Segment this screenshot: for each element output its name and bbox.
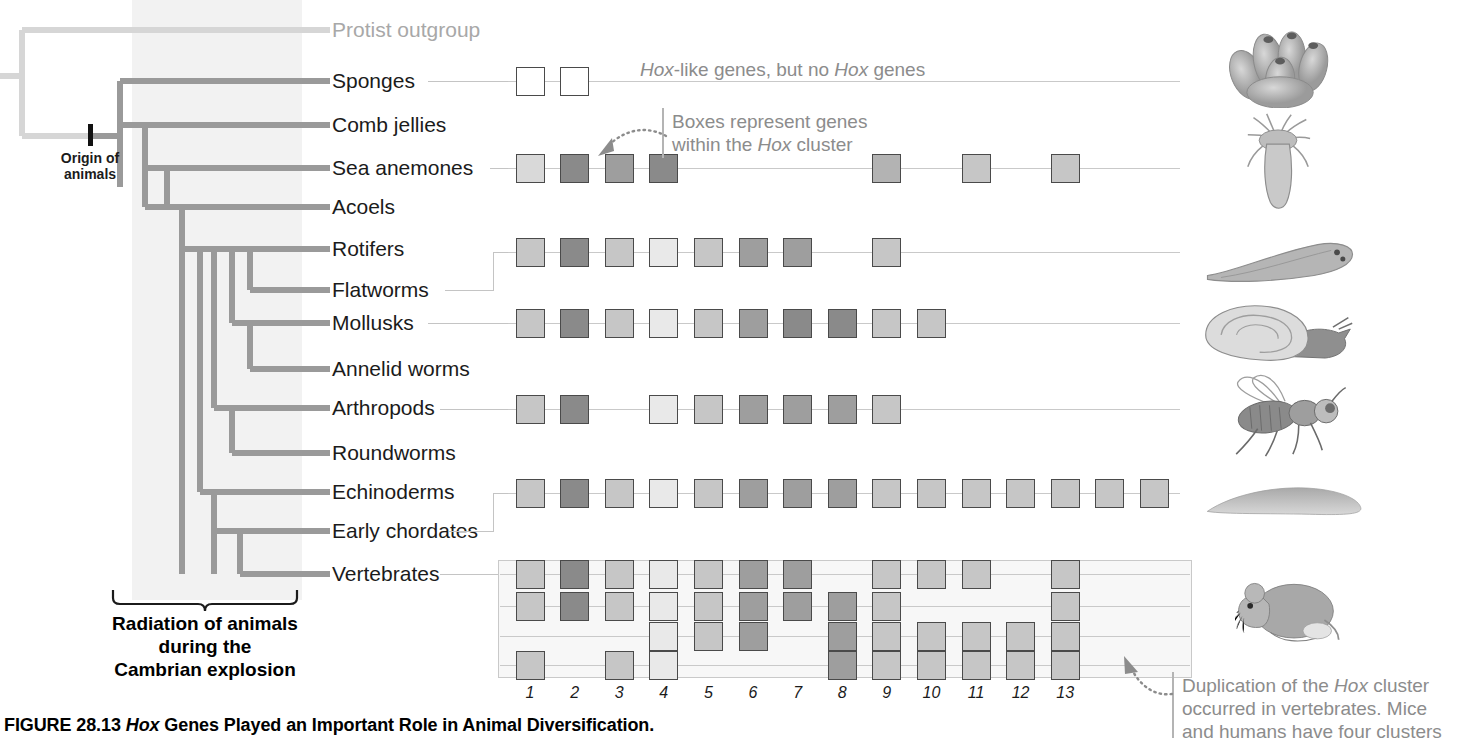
tree-branch-vertebrates — [240, 571, 330, 577]
hox-gene-box-sea-anemones-1 — [516, 154, 545, 183]
hox-gene-box-cluster-d-13 — [1051, 651, 1080, 680]
hox-gene-box-echinoderms-early-chordates-8 — [828, 479, 857, 508]
hox-column-number-6: 6 — [733, 684, 773, 702]
tree-node-bilateria — [179, 207, 185, 574]
taxon-label-comb-jellies: Comb jellies — [332, 114, 446, 135]
cambrian-line-3: Cambrian explosion — [114, 659, 296, 680]
hox-like-annotation-italic-1: Hox — [640, 59, 674, 80]
cambrian-line-1: Radiation of animals — [112, 613, 298, 634]
hox-gene-box-cluster-a-4 — [649, 560, 678, 589]
hox-gene-box-cluster-d-3 — [605, 651, 634, 680]
hox-gene-box-mollusks-annelid-worms-2 — [560, 309, 589, 338]
hox-gene-box-mollusks-annelid-worms-1 — [516, 309, 545, 338]
sea-cucumber-illustration — [1200, 483, 1368, 519]
origin-label-line-2: animals — [64, 166, 116, 182]
cambrian-line-2: during the — [159, 636, 252, 657]
hox-column-number-2: 2 — [555, 684, 595, 702]
tree-branch-acoels — [182, 204, 330, 210]
boxes-annotation-line-2a: within the — [672, 134, 758, 155]
hox-gene-box-arthropods-roundworms-1 — [516, 395, 545, 424]
tree-branch-origin — [92, 133, 120, 139]
taxon-label-sea-anemones: Sea anemones — [332, 157, 473, 178]
hox-like-annotation-italic-2: Hox — [834, 59, 868, 80]
taxon-label-roundworms: Roundworms — [332, 442, 456, 463]
tree-branch-protist-outgroup — [22, 27, 330, 33]
hox-column-number-1: 1 — [510, 684, 550, 702]
hox-gene-box-mollusks-annelid-worms-9 — [872, 309, 901, 338]
leader-arthropods — [440, 409, 510, 410]
hox-gene-box-echinoderms-early-chordates-2 — [560, 479, 589, 508]
hox-column-number-3: 3 — [599, 684, 639, 702]
hox-gene-box-cluster-a-10 — [917, 560, 946, 589]
tree-branch-rotifers — [250, 246, 330, 252]
tree-outgroup-split — [19, 30, 25, 136]
hox-gene-box-cluster-a-2 — [560, 560, 589, 589]
hox-column-number-5: 5 — [688, 684, 728, 702]
hox-gene-box-arthropods-roundworms-4 — [649, 395, 678, 424]
tree-link-7 — [232, 246, 250, 252]
tree-node-rot-flat — [247, 249, 253, 290]
taxon-label-echinoderms: Echinoderms — [332, 481, 455, 502]
hox-gene-box-echinoderms-early-chordates-1 — [516, 479, 545, 508]
hox-gene-box-cluster-b-2 — [560, 592, 589, 621]
tree-link-4 — [182, 246, 200, 252]
hox-column-number-13: 13 — [1045, 684, 1085, 702]
duplication-line-1a: Duplication of the — [1182, 675, 1334, 696]
tree-link-9 — [214, 405, 232, 411]
origin-label-line-1: Origin of — [61, 150, 119, 166]
hox-gene-box-cluster-c-4 — [649, 622, 678, 651]
leader-flatworms-h — [445, 290, 493, 291]
hox-gene-box-sea-anemones-2 — [560, 154, 589, 183]
hox-gene-box-cluster-c-13 — [1051, 622, 1080, 651]
hox-gene-box-cluster-b-6 — [739, 592, 768, 621]
origin-of-animals-marker — [88, 124, 93, 146]
hox-gene-box-echinoderms-early-chordates-4 — [649, 479, 678, 508]
taxon-label-annelid-worms: Annelid worms — [332, 358, 470, 379]
leader-mollusks — [428, 323, 510, 324]
hox-gene-box-echinoderms-early-chordates-12 — [1006, 479, 1035, 508]
hox-gene-box-cluster-b-4 — [649, 592, 678, 621]
snail-illustration — [1198, 300, 1358, 364]
hox-gene-box-cluster-c-11 — [962, 622, 991, 651]
hox-gene-box-mollusks-annelid-worms-5 — [694, 309, 723, 338]
cambrian-explosion-label: Radiation of animals during the Cambrian… — [55, 613, 355, 681]
tree-link-10 — [200, 489, 214, 495]
hox-like-genes-annotation: Hox-like genes, but no Hox genes — [640, 58, 925, 81]
hox-like-annotation-text-1: -like genes, but no — [674, 59, 835, 80]
tree-branch-annelid-worms — [250, 366, 330, 372]
tree-node-nephrozoa — [197, 249, 203, 492]
hox-backbone-line-cluster-a — [500, 574, 1190, 575]
hox-gene-box-rotifers-flatworms-9 — [872, 238, 901, 267]
hox-gene-box-echinoderms-early-chordates-13 — [1051, 479, 1080, 508]
boxes-annotation-line-2c: cluster — [791, 134, 852, 155]
hox-gene-box-sponges-1 — [516, 67, 545, 96]
hox-gene-box-cluster-b-5 — [694, 592, 723, 621]
leader-vertebrates — [440, 574, 502, 575]
hox-gene-box-cluster-d-1 — [516, 651, 545, 680]
tree-branch-echinoderms — [214, 489, 330, 495]
hox-gene-box-cluster-b-1 — [516, 592, 545, 621]
hox-gene-box-mollusks-annelid-worms-7 — [783, 309, 812, 338]
hox-gene-box-cluster-d-9 — [872, 651, 901, 680]
hox-gene-box-rotifers-flatworms-6 — [739, 238, 768, 267]
hox-gene-box-echinoderms-early-chordates-11 — [962, 479, 991, 508]
tree-link-1 — [120, 122, 145, 128]
hox-gene-box-sea-anemones-11 — [962, 154, 991, 183]
hox-gene-box-cluster-c-8 — [828, 622, 857, 651]
hox-gene-box-cluster-b-8 — [828, 592, 857, 621]
sponge-illustration — [1222, 28, 1342, 108]
sea-anemone-illustration — [1232, 112, 1324, 212]
boxes-annotation-line-1: Boxes represent genes — [672, 111, 867, 132]
tree-branch-arthropods — [232, 405, 330, 411]
fly-illustration — [1218, 372, 1358, 460]
boxes-represent-genes-annotation: Boxes represent genes within the Hox clu… — [672, 110, 867, 156]
taxon-label-flatworms: Flatworms — [332, 279, 429, 300]
hox-gene-box-cluster-d-12 — [1006, 651, 1035, 680]
hox-gene-box-cluster-a-13 — [1051, 560, 1080, 589]
hox-gene-box-echinoderms-early-chordates-6 — [739, 479, 768, 508]
hox-gene-box-cluster-c-12 — [1006, 622, 1035, 651]
hox-gene-box-echinoderms-early-chordates-15 — [1140, 479, 1169, 508]
hox-gene-box-echinoderms-early-chordates-7 — [783, 479, 812, 508]
hox-gene-box-cluster-a-1 — [516, 560, 545, 589]
caption-italic-hox: Hox — [126, 715, 160, 735]
